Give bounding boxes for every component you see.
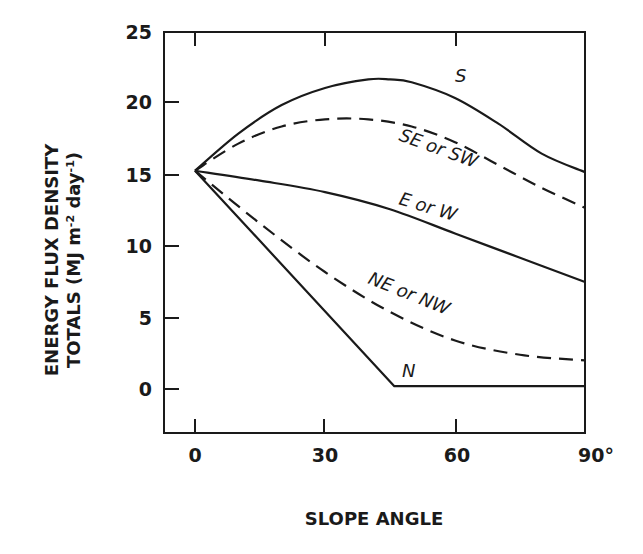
y-tick-20: 20 [126,91,152,113]
x-ticks [195,32,456,433]
plot-frame [164,32,585,433]
y-tick-labels: 25 20 15 10 5 0 [126,21,152,400]
x-tick-30: 30 [312,444,338,466]
curve-se-or-sw [195,118,585,207]
x-tick-90: 90° [578,444,614,466]
curve-s [195,79,585,172]
label-N: N [402,360,415,381]
y-tick-15: 15 [126,164,152,186]
y-tick-5: 5 [139,307,152,329]
label-S: S [455,65,466,86]
chart: 25 20 15 10 5 0 0 30 60 90° ENERGY FLUX … [0,0,643,554]
y-axis-title-line2: TOTALS (MJ m-2 day-1) [63,152,84,368]
y-axis-title-line1: ENERGY FLUX DENSITY [41,143,62,376]
y-tick-25: 25 [126,21,152,43]
x-tick-60: 60 [444,444,470,466]
curves [195,79,585,386]
y-tick-10: 10 [126,235,152,257]
curve-ne-or-nw [195,171,585,361]
x-tick-0: 0 [188,444,201,466]
y-ticks [164,102,179,389]
y-axis-title: ENERGY FLUX DENSITY TOTALS (MJ m-2 day-1… [41,143,84,376]
curve-e-or-w [195,171,585,282]
x-axis-title: SLOPE ANGLE [305,508,443,529]
label-E-or-W: E or W [397,188,461,226]
x-tick-labels: 0 30 60 90° [188,444,614,466]
y-tick-0: 0 [139,378,152,400]
label-NE-or-NW: NE or NW [366,267,455,319]
label-SE-or-SW: SE or SW [397,124,482,172]
